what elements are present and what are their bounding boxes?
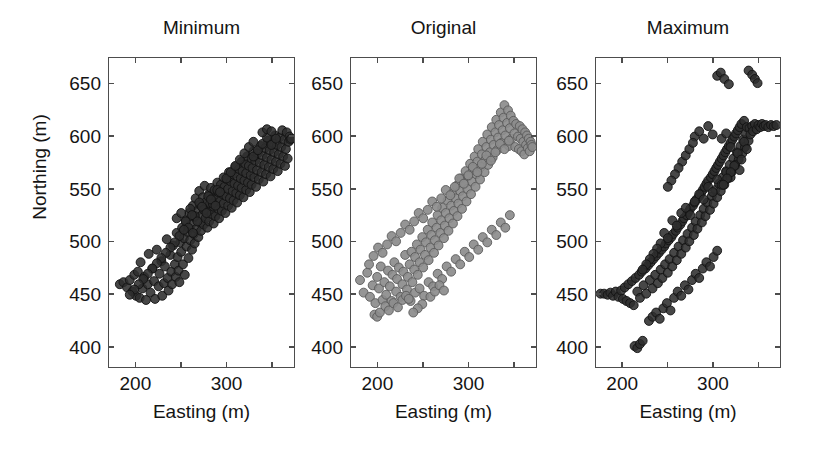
data-point [404,294,413,303]
y-tick-mark [531,346,537,348]
x-tick-mark [712,362,714,368]
plot-area-maximum [595,57,781,368]
data-point [706,262,715,271]
x-tick-mark [226,362,228,368]
data-point [249,137,258,146]
data-point [483,238,492,247]
data-point [446,191,455,200]
x-tick-mark [758,362,760,368]
y-tick-label: 500 [69,232,101,251]
scatter-points-original [351,58,536,367]
data-point [492,231,501,240]
x-tick-mark [422,362,424,368]
panel-minimum: Minimum400450500550600650200300Easting (… [108,57,295,368]
x-tick-mark [667,57,669,63]
data-point [193,217,202,226]
y-tick-label: 600 [556,127,588,146]
data-point [202,209,211,218]
data-point [363,268,372,277]
y-tick-label: 600 [69,127,101,146]
data-point [684,285,693,294]
y-tick-mark [775,241,781,243]
data-point [500,145,509,154]
data-point [144,249,153,258]
y-tick-mark [350,346,356,348]
y-tick-mark [531,188,537,190]
data-point [267,127,276,136]
y-tick-mark [108,346,114,348]
y-tick-label: 400 [311,337,343,356]
data-point [505,211,514,220]
panel-title-original: Original [350,17,537,39]
panel-original: Original400450500550600650200300Easting … [350,57,537,368]
x-axis-label-maximum: Easting (m) [595,401,781,423]
data-point [704,122,713,131]
data-point [474,245,483,254]
data-point [464,171,473,180]
x-tick-label: 200 [606,374,638,393]
data-point [722,129,731,138]
x-tick-mark [621,57,623,63]
y-tick-label: 450 [311,285,343,304]
y-tick-label: 400 [69,337,101,356]
data-point [726,143,735,152]
data-point [699,195,708,204]
x-tick-label: 200 [120,374,152,393]
y-tick-mark [350,83,356,85]
y-tick-mark [108,241,114,243]
x-tick-mark [712,57,714,63]
data-point [753,79,762,88]
data-point [459,179,468,188]
data-point [396,228,405,237]
y-tick-label: 650 [311,74,343,93]
data-point [405,225,414,234]
data-point [211,201,220,210]
data-point [629,301,638,310]
y-tick-mark [775,188,781,190]
y-tick-mark [595,346,601,348]
x-tick-mark [226,57,228,63]
data-point [184,254,193,263]
y-tick-mark [289,346,295,348]
y-tick-mark [350,188,356,190]
data-point [440,286,449,295]
data-point [724,80,733,89]
y-tick-mark [108,188,114,190]
data-point [136,258,145,267]
data-point [486,156,495,165]
y-tick-mark [289,188,295,190]
scatter-points-minimum [109,58,294,367]
y-tick-mark [775,135,781,137]
y-tick-mark [108,83,114,85]
x-tick-label: 300 [453,374,485,393]
y-tick-mark [595,83,601,85]
panel-title-maximum: Maximum [595,17,781,39]
x-tick-mark [422,57,424,63]
y-tick-mark [775,293,781,295]
y-tick-mark [350,293,356,295]
x-tick-mark [135,57,137,63]
data-point [699,134,708,143]
x-tick-mark [135,362,137,368]
data-point [663,182,672,191]
data-point [456,260,465,269]
data-point [713,246,722,255]
y-tick-label: 600 [311,127,343,146]
y-tick-label: 650 [69,74,101,93]
data-point [491,148,500,157]
data-point [719,180,728,189]
data-point [369,251,378,260]
data-point [152,245,161,254]
y-tick-mark [350,241,356,243]
y-tick-label: 650 [556,74,588,93]
y-tick-mark [531,241,537,243]
data-point [216,188,225,197]
data-point [688,138,697,147]
data-point [772,121,780,130]
data-point [283,154,292,163]
y-tick-label: 450 [69,285,101,304]
data-point [180,270,189,279]
y-tick-mark [108,293,114,295]
data-point [742,145,751,154]
y-tick-label: 400 [556,337,588,356]
